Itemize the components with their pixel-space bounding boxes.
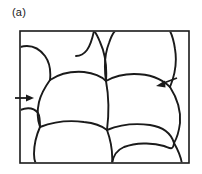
figure-panel: (a)	[0, 0, 202, 174]
schematic-frame	[20, 31, 189, 163]
grain-structure-schematic	[0, 0, 202, 174]
